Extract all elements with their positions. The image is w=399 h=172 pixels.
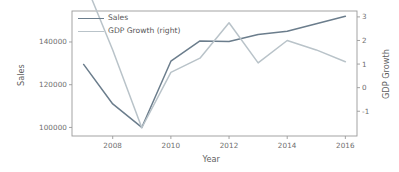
y2-tick-marks xyxy=(357,17,360,111)
x-tick-label: 2016 xyxy=(325,141,365,150)
x-tick-label: 2010 xyxy=(151,141,191,150)
x-tick-label: 2008 xyxy=(93,141,133,150)
x-axis-title: Year xyxy=(203,154,220,164)
y2-tick-label: 2 xyxy=(362,36,367,45)
y2-tick-label: -1 xyxy=(362,107,369,116)
y2-tick-label: 3 xyxy=(362,12,367,21)
y2-axis-title: GDP Growth xyxy=(381,49,391,99)
legend-label: Sales xyxy=(108,13,128,23)
y2-tick-label: 0 xyxy=(362,83,367,92)
y-tick-label: 100000 xyxy=(22,123,67,132)
chart-legend: SalesGDP Growth (right) xyxy=(78,13,180,36)
y-tick-label: 140000 xyxy=(22,37,67,46)
y-axis-title: Sales xyxy=(16,64,26,86)
x-tick-label: 2012 xyxy=(209,141,249,150)
y-tick-label: 120000 xyxy=(22,80,67,89)
legend-line-swatch xyxy=(78,18,104,19)
chart-figure: 20082010201220142016100000120000140000-1… xyxy=(0,0,399,172)
legend-label: GDP Growth (right) xyxy=(108,26,180,36)
legend-line-swatch xyxy=(78,31,104,32)
y2-tick-label: 1 xyxy=(362,60,367,69)
x-tick-label: 2014 xyxy=(267,141,307,150)
legend-item: Sales xyxy=(78,13,180,23)
legend-item: GDP Growth (right) xyxy=(78,26,180,36)
